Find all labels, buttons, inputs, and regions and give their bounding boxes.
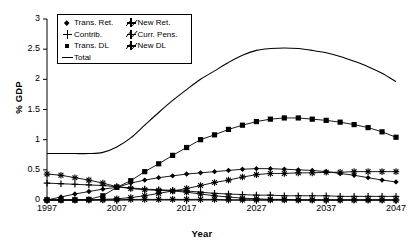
legend-label: New DL (138, 40, 166, 51)
legend-row: Contrib. Curr. Pens. (61, 29, 188, 41)
x-tick-label: 1997 (27, 203, 67, 213)
y-tick-label: 2 (14, 73, 40, 83)
legend-label: Trans. Ret. (74, 17, 113, 28)
series-curr-pens (44, 171, 400, 204)
x-axis-label: Year (0, 228, 404, 239)
y-tick-label: 1 (14, 134, 40, 144)
series-new-ret (44, 168, 400, 203)
legend-item-new-dl: New DL (125, 40, 189, 51)
diamond-marker-icon (61, 17, 74, 28)
y-tick-label: 0.5 (14, 164, 40, 174)
x-tick-label: 2007 (97, 203, 137, 213)
legend-row: Trans. Ret. New Ret. (61, 17, 188, 29)
y-tick-label: 3 (14, 13, 40, 23)
legend-item-new-ret: New Ret. (125, 17, 189, 28)
legend-item-curr-pens: Curr. Pens. (125, 29, 189, 40)
legend-label: Curr. Pens. (138, 29, 178, 40)
y-tick-label: 1.5 (14, 104, 40, 114)
chart-legend: Trans. Ret. New Ret. Contrib. Curr. Pens… (57, 14, 192, 64)
star-marker-icon (125, 17, 138, 28)
star-marker-icon (125, 40, 138, 51)
y-tick-label: 2.5 (14, 43, 40, 53)
legend-label: New Ret. (138, 17, 171, 28)
square-marker-icon (61, 40, 74, 51)
legend-item-contrib: Contrib. (61, 29, 125, 40)
legend-label: Trans. DL (74, 40, 109, 51)
x-tick-label: 2027 (236, 203, 276, 213)
plus-marker-icon (61, 29, 74, 40)
legend-label: Total (74, 52, 91, 63)
x-tick-label: 2047 (376, 203, 411, 213)
x-tick-label: 2017 (167, 203, 207, 213)
series-trans-dl (44, 115, 398, 202)
line-marker-icon (61, 52, 74, 63)
legend-item-trans-ret: Trans. Ret. (61, 17, 125, 28)
legend-row: Total (61, 52, 188, 64)
legend-row: Trans. DL New DL (61, 40, 188, 52)
legend-label: Contrib. (74, 29, 102, 40)
legend-item-total: Total (61, 52, 127, 63)
x-tick-label: 2037 (306, 203, 346, 213)
legend-item-trans-dl: Trans. DL (61, 40, 125, 51)
star-marker-icon (125, 29, 138, 40)
